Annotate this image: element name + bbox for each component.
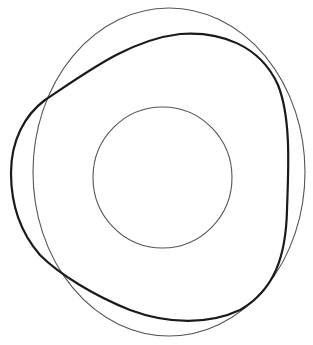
background <box>0 0 313 345</box>
diagram-canvas <box>0 0 313 345</box>
